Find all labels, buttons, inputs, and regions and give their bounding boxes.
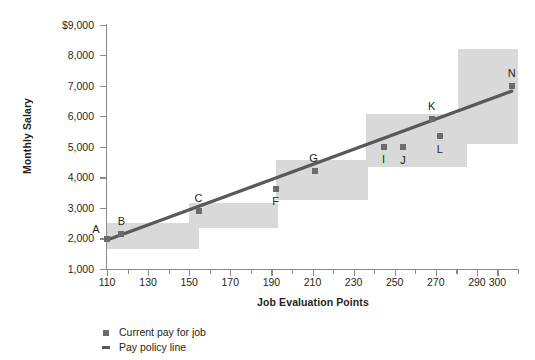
x-axis-tick-label: 250	[375, 276, 415, 288]
chart-legend: Current pay for jobPay policy line	[100, 325, 206, 355]
x-axis-tick-label: 150	[169, 276, 209, 288]
y-axis-tick	[100, 208, 107, 209]
y-axis-tick	[100, 86, 107, 87]
legend-item: Current pay for job	[100, 325, 206, 340]
legend-item: Pay policy line	[100, 340, 206, 355]
x-axis-tick	[107, 269, 108, 276]
data-point-label: J	[400, 154, 406, 166]
x-axis-tick	[292, 269, 293, 274]
x-axis-tick	[251, 269, 252, 274]
data-point-marker	[400, 144, 406, 150]
x-axis-tick	[230, 269, 231, 276]
x-axis-tick	[189, 269, 190, 276]
x-axis-tick-label: 210	[293, 276, 333, 288]
data-point-marker	[196, 208, 202, 214]
data-point-label: A	[92, 223, 99, 235]
y-axis-tick-label: 1,000	[28, 263, 94, 275]
y-axis-tick-label: $9,000	[28, 19, 94, 31]
x-axis-tick	[210, 269, 211, 274]
data-point-marker	[118, 231, 124, 237]
x-axis-tick-label: 110	[87, 276, 127, 288]
y-axis-tick	[100, 55, 107, 56]
x-axis-tick-label: 300	[477, 276, 517, 288]
data-point-marker	[104, 236, 110, 242]
x-axis-tick	[128, 269, 129, 274]
data-point-label: N	[508, 67, 516, 79]
x-axis-tick	[354, 269, 355, 276]
y-axis-tick	[100, 147, 107, 148]
x-axis-tick	[271, 269, 272, 276]
x-axis-tick	[333, 269, 334, 274]
legend-swatch	[100, 346, 112, 349]
x-axis-tick-label: 130	[128, 276, 168, 288]
x-axis-tick	[456, 269, 457, 274]
legend-item-label: Current pay for job	[119, 327, 206, 338]
legend-dash-icon	[102, 346, 110, 349]
x-axis-tick	[415, 269, 416, 274]
x-axis-tick	[148, 269, 149, 276]
x-axis-tick	[497, 269, 498, 276]
data-point-label: G	[309, 152, 318, 164]
salary-structure-chart: $9,0008,0007,0006,0005,0004,0003,0002,00…	[0, 0, 535, 360]
data-point-marker	[509, 83, 515, 89]
y-axis-tick-label: 2,000	[28, 232, 94, 244]
x-axis-tick	[169, 269, 170, 274]
data-point-marker	[381, 144, 387, 150]
y-axis-tick-label: 8,000	[28, 49, 94, 61]
y-axis-tick	[100, 177, 107, 178]
legend-square-icon	[103, 330, 109, 336]
data-point-marker	[312, 168, 318, 174]
legend-swatch	[100, 330, 112, 336]
y-axis-tick-label: 3,000	[28, 202, 94, 214]
y-axis-tick-label: 5,000	[28, 141, 94, 153]
x-axis-tick-label: 270	[416, 276, 456, 288]
y-axis-tick	[100, 116, 107, 117]
y-axis-tick-label: 7,000	[28, 80, 94, 92]
grade-range-band	[276, 160, 368, 200]
data-point-marker	[429, 116, 435, 122]
data-point-label: C	[194, 192, 202, 204]
x-axis-tick-label: 190	[251, 276, 291, 288]
data-point-label: F	[272, 195, 279, 207]
y-axis-tick	[100, 25, 107, 26]
legend-item-label: Pay policy line	[119, 342, 186, 353]
data-point-marker	[437, 133, 443, 139]
x-axis-tick-label: 170	[210, 276, 250, 288]
data-point-label: B	[118, 215, 125, 227]
y-axis-tick-label: 6,000	[28, 110, 94, 122]
x-axis-tick	[313, 269, 314, 276]
data-point-label: K	[428, 100, 435, 112]
x-axis-title: Job Evaluation Points	[107, 296, 519, 308]
data-point-label: I	[382, 153, 385, 165]
y-axis-title: Monthly Salary	[21, 76, 33, 196]
x-axis-tick-label: 230	[334, 276, 374, 288]
y-axis-tick	[100, 269, 107, 270]
x-axis-tick	[395, 269, 396, 276]
data-point-marker	[273, 186, 279, 192]
x-axis-tick	[436, 269, 437, 276]
data-point-label: L	[437, 143, 443, 155]
y-axis-tick-label: 4,000	[28, 171, 94, 183]
x-axis-tick	[518, 269, 519, 274]
x-axis-tick	[477, 269, 478, 276]
x-axis-tick	[374, 269, 375, 274]
